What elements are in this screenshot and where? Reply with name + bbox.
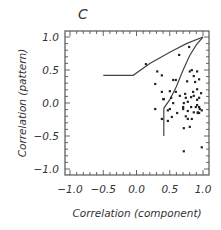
data-point	[169, 90, 171, 92]
data-point	[198, 97, 200, 99]
data-point	[175, 79, 177, 81]
data-point	[182, 108, 184, 110]
data-point	[190, 106, 192, 108]
panel-label: C	[78, 6, 88, 22]
scatter-chart: C −1.0−0.50.00.51.0 1.00.50.0−0.5−1.0 Co…	[0, 0, 221, 230]
data-point	[185, 115, 187, 117]
data-point	[172, 102, 174, 104]
data-point	[198, 106, 200, 108]
data-point	[154, 108, 156, 110]
data-point	[176, 112, 178, 114]
data-point	[195, 106, 197, 108]
data-point	[193, 95, 195, 97]
data-point	[193, 75, 195, 77]
data-point	[194, 81, 196, 83]
data-point	[201, 146, 203, 148]
data-point	[161, 91, 163, 93]
x-tick-label: −0.5	[91, 183, 117, 195]
data-point	[154, 83, 156, 85]
y-tick-labels: 1.00.50.0−0.5−1.0	[34, 31, 60, 175]
y-tick-label: 1.0	[42, 31, 59, 43]
data-point	[189, 70, 191, 72]
y-tick-label: −0.5	[34, 130, 60, 142]
data-point	[183, 127, 185, 129]
x-tick-label: 1.0	[195, 183, 212, 195]
data-point	[188, 46, 190, 48]
data-point	[172, 79, 174, 81]
y-tick-label: 0.5	[42, 64, 59, 76]
data-point	[201, 109, 203, 111]
data-point	[184, 93, 186, 95]
data-point	[156, 70, 158, 72]
x-axis-label: Correlation (component)	[72, 207, 201, 219]
boundary-lines	[103, 37, 203, 136]
x-tick-labels: −1.0−0.50.00.51.0	[57, 183, 211, 195]
data-point	[186, 80, 188, 82]
plot-border	[65, 31, 209, 175]
data-point	[189, 126, 191, 128]
data-point	[169, 108, 171, 110]
axis-ticks	[65, 31, 209, 175]
data-point	[196, 70, 198, 72]
data-point	[145, 63, 147, 65]
data-point	[187, 110, 189, 112]
x-tick-label: 0.0	[128, 183, 145, 195]
data-point	[170, 97, 172, 99]
y-tick-label: 0.0	[42, 97, 59, 109]
boundary-line	[103, 37, 203, 75]
data-point	[196, 99, 198, 101]
data-point	[179, 95, 181, 97]
data-point	[161, 74, 163, 76]
data-point	[191, 69, 193, 71]
data-point	[187, 118, 189, 120]
data-point	[182, 106, 184, 108]
data-point	[167, 120, 169, 122]
data-point	[193, 111, 195, 113]
data-point	[191, 118, 193, 120]
data-point	[196, 88, 198, 90]
data-point	[197, 112, 199, 114]
data-point	[183, 150, 185, 152]
x-tick-label: 0.5	[161, 183, 178, 195]
data-point	[199, 108, 201, 110]
data-point	[161, 118, 163, 120]
data-point	[171, 116, 173, 118]
x-tick-label: −1.0	[57, 183, 83, 195]
data-point	[185, 97, 187, 99]
y-tick-label: −1.0	[34, 163, 60, 175]
data-point	[198, 78, 200, 80]
data-point	[196, 104, 198, 106]
data-point	[162, 98, 164, 100]
plot-frame	[65, 31, 209, 175]
data-point	[190, 96, 192, 98]
y-axis-label: Correlation (pattern)	[16, 49, 28, 158]
data-point	[175, 91, 177, 93]
data-point	[167, 109, 169, 111]
data-point	[178, 54, 180, 56]
data-point	[192, 91, 194, 93]
data-point	[200, 92, 202, 94]
data-point	[187, 101, 189, 103]
data-point	[183, 102, 185, 104]
